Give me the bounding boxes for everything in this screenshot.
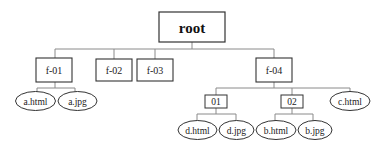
folder-label: f-04 [266,65,283,76]
folder-label: f-03 [147,65,164,76]
file-label: b.html [264,126,289,136]
folder-node-f01: f-01 [36,58,72,82]
file-label: c.html [338,97,362,107]
folder-node-01: 01 [205,95,227,108]
tree-diagram: root f-01 f-02 f-03 f-04 01 02 a.html a.… [0,0,385,151]
file-label: a.jpg [68,97,87,107]
file-node-d-jpg: d.jpg [219,121,254,140]
folder-label: 02 [287,97,297,107]
file-node-a-html: a.html [16,92,56,111]
root-node: root [159,12,225,42]
folder-node-f04: f-04 [256,58,292,82]
folder-label: 01 [211,97,221,107]
file-node-a-jpg: a.jpg [58,92,97,111]
file-node-b-jpg: b.jpg [298,121,332,140]
file-node-b-html: b.html [256,121,296,140]
folder-node-02: 02 [281,95,303,108]
folder-label: f-02 [106,65,123,76]
root-label: root [179,20,205,36]
file-label: b.jpg [305,126,325,136]
folder-label: f-01 [46,65,63,76]
folder-node-f03: f-03 [137,59,173,81]
folder-node-f02: f-02 [96,59,132,81]
file-node-c-html: c.html [330,92,370,111]
file-label: a.html [23,97,47,107]
file-label: d.jpg [227,126,247,136]
file-label: d.html [185,126,210,136]
tree-diagram-canvas: root f-01 f-02 f-03 f-04 01 02 a.html a.… [0,0,385,151]
file-node-d-html: d.html [178,121,217,140]
